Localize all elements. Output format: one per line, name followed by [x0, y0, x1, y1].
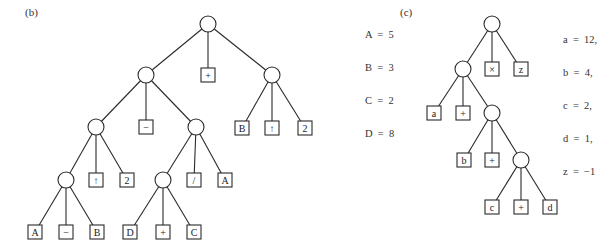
internal-node	[264, 67, 280, 83]
leaf-label: +	[518, 202, 524, 213]
panel-label-b: (b)	[25, 6, 38, 18]
internal-node	[200, 16, 216, 32]
leaf-label: +	[460, 108, 466, 119]
legend-c-line: c = 2,	[563, 100, 597, 111]
leaf-label: A	[221, 175, 229, 186]
internal-node	[484, 16, 500, 32]
tree-b: +B↑2−↑2/AA−BD+C	[28, 16, 312, 239]
tree-edge	[96, 127, 127, 180]
internal-node	[455, 61, 471, 77]
legend-c: a = 12, b = 4, c = 2, d = 1, z = −1	[563, 12, 597, 188]
tree-edge	[163, 127, 196, 180]
leaf-label: ×	[489, 64, 495, 75]
legend-c-line: b = 4,	[563, 67, 597, 78]
leaf-label: −	[63, 227, 69, 238]
leaf-label: /	[193, 175, 196, 186]
tree-edge	[196, 127, 225, 180]
tree-edge	[272, 75, 305, 128]
legend-b-line: A = 5	[365, 29, 394, 40]
leaf-label: −	[143, 122, 149, 133]
legend-c-line: a = 12,	[563, 34, 597, 45]
internal-node	[58, 172, 74, 188]
leaf-label: ↑	[94, 175, 99, 186]
legend-b-line: C = 2	[365, 95, 394, 106]
legend-c-line: z = −1	[563, 166, 597, 177]
internal-node	[138, 67, 154, 83]
tree-edge	[66, 180, 97, 232]
tree-edge	[130, 180, 163, 232]
leaf-label: z	[519, 64, 524, 75]
leaf-label: +	[160, 227, 166, 238]
leaf-label: B	[239, 123, 246, 134]
internal-node	[188, 119, 204, 135]
tree-c: ×za+b+c+d	[427, 16, 557, 214]
leaf-label: a	[432, 108, 437, 119]
leaf-label: A	[31, 227, 39, 238]
internal-node	[155, 172, 171, 188]
internal-node	[484, 105, 500, 121]
leaf-label: +	[205, 70, 211, 81]
expression-trees: +B↑2−↑2/AA−BD+C×za+b+c+d	[0, 0, 615, 248]
tree-edge	[146, 75, 196, 127]
leaf-label: B	[94, 227, 101, 238]
leaf-label: D	[126, 227, 133, 238]
leaf-label: ↑	[270, 123, 275, 134]
leaf-label: +	[489, 155, 495, 166]
internal-node	[88, 119, 104, 135]
tree-edge	[208, 24, 272, 75]
internal-node	[513, 152, 529, 168]
tree-edge	[96, 75, 146, 127]
leaf-label: d	[548, 202, 553, 213]
tree-edge	[242, 75, 272, 128]
legend-b-line: D = 8	[365, 128, 394, 139]
tree-edge	[35, 180, 66, 232]
legend-b-line: B = 3	[365, 62, 394, 73]
tree-edge	[146, 24, 208, 75]
legend-b: A = 5 B = 3 C = 2 D = 8	[365, 7, 394, 150]
leaf-label: C	[191, 227, 198, 238]
panel-label-c: (c)	[400, 6, 412, 18]
leaf-label: b	[462, 155, 467, 166]
tree-edge	[163, 180, 194, 232]
leaf-label: 2	[125, 175, 130, 186]
leaf-label: c	[490, 202, 495, 213]
legend-c-line: d = 1,	[563, 133, 597, 144]
leaf-label: 2	[303, 123, 308, 134]
tree-edge	[66, 127, 96, 180]
